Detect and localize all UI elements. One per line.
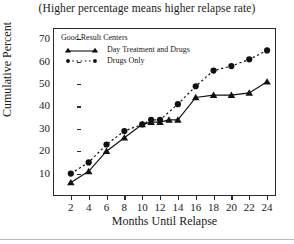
x-axis-tick-labels: 24681012141618202224 — [53, 196, 276, 216]
data-point-circle — [264, 47, 270, 53]
y-tick-label: 40 — [28, 99, 50, 111]
x-tick-mark — [160, 196, 161, 200]
x-tick-mark — [267, 196, 268, 200]
legend-item-drugs-only: Drugs Only — [61, 56, 190, 67]
page-divider — [0, 239, 294, 240]
data-point-circle — [157, 117, 163, 123]
data-point-triangle — [263, 78, 271, 84]
data-point-circle — [86, 159, 92, 165]
data-point-circle — [139, 121, 145, 127]
data-point-circle — [246, 56, 252, 62]
legend-heading: Good Result Centers — [61, 33, 190, 44]
data-point-circle — [193, 83, 199, 89]
data-point-triangle — [245, 89, 253, 95]
plot-area: Good Result Centers Day Treatment and Dr… — [53, 28, 276, 196]
x-axis-label: Months Until Relapse — [53, 214, 276, 229]
data-point-circle — [175, 101, 181, 107]
legend-label: Drugs Only — [107, 56, 145, 67]
data-point-circle — [228, 63, 234, 69]
legend-item-day-treatment-and-drugs: Day Treatment and Drugs — [61, 45, 190, 56]
x-tick-mark — [71, 196, 72, 200]
series-line — [71, 82, 267, 183]
y-axis-label: Cumulative Percent — [0, 0, 15, 145]
chart-page: (Higher percentage means higher relapse … — [0, 0, 294, 244]
x-tick-mark — [249, 196, 250, 200]
data-point-circle — [148, 117, 154, 123]
legend-label: Day Treatment and Drugs — [107, 45, 190, 56]
x-tick-mark — [178, 196, 179, 200]
y-tick-label: 10 — [28, 167, 50, 179]
series-line — [71, 50, 267, 173]
data-point-circle — [121, 128, 127, 134]
x-tick-mark — [214, 196, 215, 200]
series-drugs-only — [68, 47, 270, 176]
series-day-treatment-and-drugs — [67, 78, 271, 185]
x-tick-mark — [231, 196, 232, 200]
data-point-circle — [210, 67, 216, 73]
x-tick-mark — [124, 196, 125, 200]
data-point-circle — [103, 141, 109, 147]
legend-sample-solid-triangle — [61, 46, 103, 55]
y-tick-label: 60 — [28, 55, 50, 67]
data-point-circle — [68, 171, 74, 177]
x-tick-mark — [107, 196, 108, 200]
chart-title: (Higher percentage means higher relapse … — [0, 2, 294, 14]
x-tick-mark — [142, 196, 143, 200]
legend: Good Result Centers Day Treatment and Dr… — [61, 33, 190, 66]
y-tick-label: 30 — [28, 122, 50, 134]
y-tick-label: 70 — [28, 32, 50, 44]
y-axis-tick-labels: 10203040506070 — [24, 28, 50, 196]
legend-sample-dotted-circle — [61, 56, 103, 65]
y-tick-label: 20 — [28, 144, 50, 156]
x-tick-mark — [196, 196, 197, 200]
data-point-triangle — [67, 179, 75, 185]
x-tick-label: 24 — [255, 201, 279, 213]
x-tick-mark — [89, 196, 90, 200]
y-tick-label: 50 — [28, 77, 50, 89]
